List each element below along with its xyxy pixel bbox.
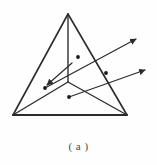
node-dot-group [43, 55, 108, 99]
edge-apex-to-bottom-right [68, 14, 127, 115]
tetrahedron-diagram [0, 0, 157, 133]
ray-group [45, 39, 145, 97]
node-dot-lower-ray-mid [104, 71, 108, 75]
node-dot-lower-ray-origin [67, 95, 71, 99]
edge-apex-to-bottom-left [13, 14, 68, 115]
figure-caption: ( a ) [0, 140, 157, 152]
figure-container: ( a ) [0, 0, 157, 165]
node-dot-upper-ray-origin [43, 86, 47, 90]
ray-upper [45, 39, 136, 88]
node-dot-upper-ray-mid [76, 55, 80, 59]
